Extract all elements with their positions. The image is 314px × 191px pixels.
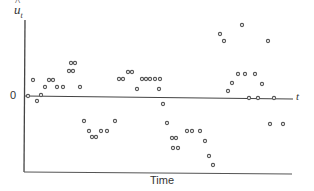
data-point bbox=[176, 146, 179, 149]
data-point bbox=[190, 129, 193, 132]
y-axis bbox=[24, 20, 25, 172]
data-point bbox=[203, 139, 206, 142]
data-point bbox=[158, 77, 161, 80]
data-point bbox=[35, 99, 38, 102]
data-point bbox=[243, 72, 246, 75]
data-point bbox=[73, 61, 76, 64]
data-point bbox=[268, 122, 271, 125]
data-point bbox=[222, 39, 225, 42]
data-point bbox=[211, 163, 214, 166]
data-point bbox=[140, 77, 143, 80]
y-axis-label: ^ut bbox=[14, 2, 23, 20]
data-point bbox=[247, 96, 250, 99]
data-point bbox=[135, 87, 138, 90]
data-point bbox=[148, 77, 151, 80]
data-point bbox=[69, 61, 72, 64]
data-point bbox=[51, 78, 54, 81]
data-point bbox=[174, 136, 177, 139]
data-point bbox=[99, 129, 102, 132]
data-point bbox=[157, 87, 160, 90]
data-point bbox=[87, 129, 90, 132]
zero-label: 0 bbox=[10, 89, 16, 101]
data-point bbox=[240, 23, 243, 26]
data-point bbox=[266, 39, 269, 42]
data-point bbox=[260, 82, 263, 85]
data-point bbox=[218, 32, 221, 35]
data-point bbox=[121, 77, 124, 80]
data-point bbox=[170, 136, 173, 139]
data-point bbox=[171, 146, 174, 149]
data-point bbox=[185, 129, 188, 132]
data-point bbox=[82, 119, 85, 122]
data-point bbox=[117, 77, 120, 80]
data-point bbox=[126, 70, 129, 73]
data-point bbox=[71, 69, 74, 72]
data-point bbox=[43, 85, 46, 88]
data-point bbox=[26, 94, 29, 97]
data-point bbox=[130, 70, 133, 73]
data-point bbox=[113, 119, 116, 122]
data-point bbox=[67, 69, 70, 72]
hat-mark: ^ bbox=[15, 0, 20, 7]
data-point bbox=[236, 72, 239, 75]
data-point bbox=[281, 122, 284, 125]
data-point bbox=[253, 72, 256, 75]
data-point bbox=[78, 85, 81, 88]
x-axis-end-label: t bbox=[296, 90, 299, 102]
y-axis-subscript: t bbox=[21, 11, 23, 20]
data-point bbox=[144, 77, 147, 80]
data-point bbox=[230, 81, 233, 84]
x-axis-label: Time bbox=[150, 174, 174, 186]
data-points bbox=[26, 23, 284, 166]
data-point bbox=[161, 102, 164, 105]
data-point bbox=[153, 77, 156, 80]
data-point bbox=[90, 135, 93, 138]
zero-axis bbox=[25, 96, 293, 99]
data-point bbox=[94, 135, 97, 138]
data-point bbox=[198, 129, 201, 132]
data-point bbox=[256, 96, 259, 99]
data-point bbox=[272, 96, 275, 99]
data-point bbox=[105, 129, 108, 132]
data-point bbox=[47, 78, 50, 81]
data-point bbox=[39, 93, 42, 96]
data-point bbox=[226, 89, 229, 92]
data-point bbox=[31, 78, 34, 81]
data-point bbox=[61, 85, 64, 88]
data-point bbox=[165, 121, 168, 124]
residual-scatter-plot bbox=[0, 0, 314, 191]
data-point bbox=[207, 154, 210, 157]
data-point bbox=[55, 85, 58, 88]
